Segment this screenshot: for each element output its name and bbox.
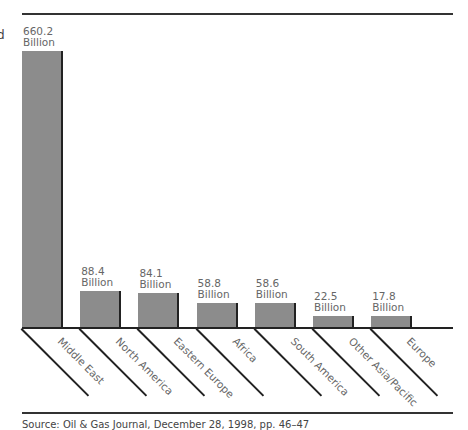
category-label: Middle East: [56, 335, 107, 386]
value-label: 58.8Billion: [198, 278, 230, 300]
bottom-rule: [22, 412, 453, 414]
category-label: South America: [288, 335, 351, 398]
value-unit: Billion: [198, 289, 230, 300]
value-unit: Billion: [314, 302, 346, 313]
source-note: Source: Oil & Gas Journal, December 28, …: [22, 419, 309, 430]
bar: [22, 51, 63, 328]
bar: [255, 303, 296, 328]
x-axis-baseline: [22, 327, 453, 329]
clipped-edge-text: d: [0, 28, 5, 42]
value-unit: Billion: [81, 277, 113, 288]
value-label: 58.6Billion: [256, 278, 288, 300]
value-label: 84.1Billion: [139, 268, 171, 290]
value-label: 88.4Billion: [81, 266, 113, 288]
value-label: 660.2Billion: [23, 26, 55, 48]
value-unit: Billion: [256, 289, 288, 300]
value-unit: Billion: [372, 302, 404, 313]
bar: [138, 293, 179, 328]
category-label: Europe: [405, 335, 440, 370]
bar: [80, 291, 121, 328]
value-label: 22.5Billion: [314, 291, 346, 313]
category-label: North America: [114, 335, 176, 397]
bar: [197, 303, 238, 328]
value-unit: Billion: [139, 279, 171, 290]
category-label: Eastern Europe: [172, 335, 237, 400]
value-label: 17.8Billion: [372, 291, 404, 313]
category-label: Africa: [230, 335, 260, 365]
top-rule: [22, 13, 453, 15]
value-unit: Billion: [23, 37, 55, 48]
